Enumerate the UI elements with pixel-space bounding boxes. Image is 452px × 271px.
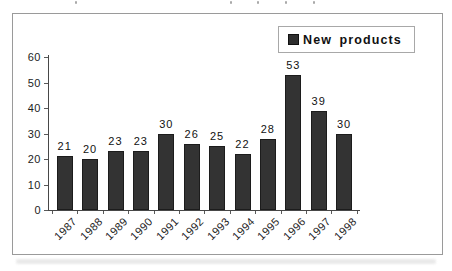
x-axis-tick [230,211,231,214]
y-axis-tick-label: 40 [15,101,41,115]
bar [285,75,301,210]
x-axis-label: 1990 [128,215,155,242]
bar [260,139,276,210]
x-axis-label: 1996 [281,215,308,242]
x-axis-tick [179,211,180,214]
x-axis-tick [154,211,155,214]
y-axis-tick-label: 10 [15,178,41,192]
scan-shadow [16,259,436,264]
x-axis-label: 1991 [154,215,181,242]
x-axis [44,210,360,211]
y-axis-tick [44,134,48,135]
x-axis-label: 1998 [331,215,358,242]
x-axis-label: 1988 [77,215,104,242]
bar [57,156,73,210]
x-axis-tick [77,211,78,214]
x-axis-tick [306,211,307,214]
bar-value-label: 30 [328,118,359,131]
y-axis-tick-label: 30 [15,127,41,141]
x-axis-tick [52,211,53,214]
y-axis-tick-label: 60 [15,50,41,64]
bar [336,134,352,211]
x-axis-tick [331,211,332,214]
y-axis-tick [44,57,48,58]
y-axis-tick [44,185,48,186]
x-axis-tick [255,211,256,214]
y-axis-tick [44,159,48,160]
plot-area: 0102030405060211987201988231989231990301… [13,14,442,254]
y-axis [48,55,49,210]
x-axis-tick [281,211,282,214]
bar [82,159,98,210]
y-axis-tick-label: 20 [15,152,41,166]
y-axis-tick [44,108,48,109]
figure: New products 010203040506021198720198823… [0,0,452,271]
y-axis-tick-label: 50 [15,76,41,90]
bar [158,134,174,211]
bar-value-label: 39 [303,95,334,108]
y-axis-tick [44,83,48,84]
bar [184,144,200,210]
cropped-caption-artifact [0,0,452,6]
x-axis-label: 1992 [179,215,206,242]
x-axis-label: 1995 [255,215,282,242]
x-axis-label: 1994 [230,215,257,242]
bar [209,146,225,210]
bar-value-label: 23 [125,135,156,148]
bar [311,111,327,210]
bar-value-label: 28 [252,123,283,136]
x-axis-tick [204,211,205,214]
bar [108,151,124,210]
bar [133,151,149,210]
y-axis-tick-label: 0 [15,203,41,217]
bar-value-label: 53 [278,59,309,72]
x-axis-tick [128,211,129,214]
x-axis-label: 1989 [103,215,130,242]
x-axis-label: 1997 [306,215,333,242]
y-axis-tick [44,210,48,211]
x-axis-tick [103,211,104,214]
x-axis-label: 1987 [52,215,79,242]
x-axis-label: 1993 [204,215,231,242]
x-axis-tick [357,211,358,214]
chart-frame: New products 010203040506021198720198823… [12,13,443,255]
bar [235,154,251,210]
bar-value-label: 22 [227,138,258,151]
